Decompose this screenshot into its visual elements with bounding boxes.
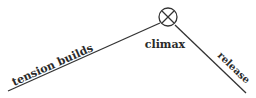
label-climax: climax (145, 38, 186, 51)
label-tension-builds: tension builds (10, 41, 95, 88)
diagram-svg: tension builds climax release (0, 0, 256, 98)
plot-arc-diagram: tension builds climax release (0, 0, 256, 98)
circled-x-icon (159, 8, 177, 26)
label-release: release (216, 50, 253, 86)
falling-line (175, 25, 246, 93)
